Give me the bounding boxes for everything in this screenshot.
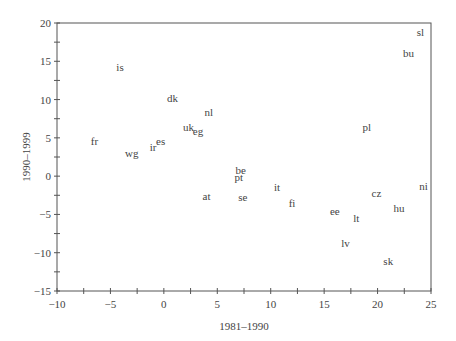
point-label-sl: sl (417, 26, 424, 38)
x-axis-title: 1981–1990 (219, 320, 269, 332)
y-tick-label: 10 (40, 94, 52, 106)
point-label-sk: sk (383, 255, 393, 267)
point-label-es: es (156, 135, 165, 147)
plot-frame (57, 23, 431, 291)
point-label-ir: ir (150, 141, 157, 153)
x-tick-label: 0 (161, 298, 167, 310)
point-label-fr: fr (91, 135, 99, 147)
point-label-is: is (116, 61, 123, 73)
x-tick-label: 5 (215, 298, 221, 310)
point-label-fi: fi (289, 197, 296, 209)
point-label-dk: dk (167, 92, 179, 104)
y-tick-label: −15 (34, 285, 52, 297)
x-tick-label: 25 (426, 298, 438, 310)
y-axis: −15−10−505101520 (34, 17, 60, 297)
y-tick-label: 0 (46, 170, 52, 182)
x-tick-label: 15 (319, 298, 331, 310)
point-label-it: it (274, 181, 280, 193)
x-tick-label: −5 (105, 298, 117, 310)
data-labels: isdknlfrukegesirwgplbeptatseitfieeltczhu… (91, 26, 428, 267)
point-label-lt: lt (353, 212, 359, 224)
x-tick-label: 20 (372, 298, 384, 310)
plot-border (57, 23, 431, 291)
y-tick-label: −10 (34, 247, 52, 259)
point-label-at: at (203, 190, 211, 202)
point-label-nl: nl (204, 106, 213, 118)
point-label-cz: cz (372, 187, 382, 199)
point-label-wg: wg (125, 147, 139, 159)
point-label-bu: bu (403, 47, 415, 59)
point-label-ee: ee (330, 205, 340, 217)
point-label-pl: pl (363, 121, 372, 133)
point-label-lv: lv (341, 237, 350, 249)
scatter-chart: −10−50510152025 −15−10−505101520 isdknlf… (0, 0, 456, 341)
y-tick-label: 15 (40, 55, 52, 67)
x-tick-label: −10 (48, 298, 66, 310)
point-label-hu: hu (393, 202, 405, 214)
point-label-ni: ni (419, 180, 428, 192)
x-tick-label: 10 (265, 298, 277, 310)
y-tick-label: 20 (40, 17, 52, 29)
y-tick-label: −5 (39, 208, 51, 220)
point-label-se: se (238, 191, 247, 203)
point-label-eg: eg (193, 125, 204, 137)
y-axis-title: 1990–1999 (20, 132, 32, 182)
y-tick-label: 5 (46, 132, 52, 144)
point-label-pt: pt (234, 171, 243, 183)
